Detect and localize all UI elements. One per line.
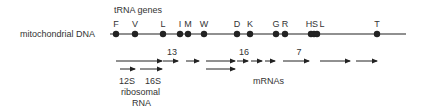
trna-gene-label: W bbox=[200, 19, 209, 29]
trna-gene-dot bbox=[201, 31, 207, 37]
mitochondrial-genome-diagram: tRNA genes mitochondrial DNA FVLIMWDKGRH… bbox=[0, 0, 427, 112]
label-16s: 16S bbox=[145, 76, 161, 86]
trna-gene-dot bbox=[234, 31, 240, 37]
trna-gene-label: F bbox=[113, 19, 119, 29]
trna-gene-label: M bbox=[184, 19, 192, 29]
trna-gene-dot bbox=[185, 31, 191, 37]
trna-gene-label: D bbox=[234, 19, 241, 29]
label-mrnas: mRNAs bbox=[253, 76, 284, 86]
trna-gene-dot bbox=[177, 31, 183, 37]
trna-gene-dot bbox=[314, 31, 320, 37]
mrna-count-label: 16 bbox=[239, 47, 249, 57]
mitochondrial-dna-label: mitochondrial DNA bbox=[20, 29, 95, 39]
trna-gene-dot bbox=[374, 31, 380, 37]
trna-gene-dot bbox=[160, 31, 166, 37]
label-ribosomal: ribosomal bbox=[121, 87, 160, 97]
trna-gene-label: L bbox=[160, 19, 165, 29]
trna-gene-label: R bbox=[282, 19, 289, 29]
trna-gene-label: T bbox=[374, 19, 380, 29]
trna-gene-label: G bbox=[272, 19, 279, 29]
trna-genes-title: tRNA genes bbox=[114, 5, 163, 15]
trna-gene-dot bbox=[282, 31, 288, 37]
trna-gene-label: S bbox=[312, 19, 318, 29]
mrna-count-label: 13 bbox=[167, 47, 177, 57]
trna-gene-dot bbox=[113, 31, 119, 37]
label-rna: RNA bbox=[132, 98, 151, 108]
trna-gene-label: V bbox=[132, 19, 138, 29]
trna-gene-dot bbox=[132, 31, 138, 37]
mrna-count-label: 7 bbox=[296, 47, 301, 57]
trna-gene-label: I bbox=[179, 19, 182, 29]
trna-gene-label: L bbox=[319, 19, 324, 29]
label-12s: 12S bbox=[119, 76, 135, 86]
trna-gene-dot bbox=[273, 31, 279, 37]
trna-gene-dot bbox=[247, 31, 253, 37]
trna-gene-label: K bbox=[247, 19, 253, 29]
mrna-count-labels: 13167 bbox=[167, 47, 302, 57]
